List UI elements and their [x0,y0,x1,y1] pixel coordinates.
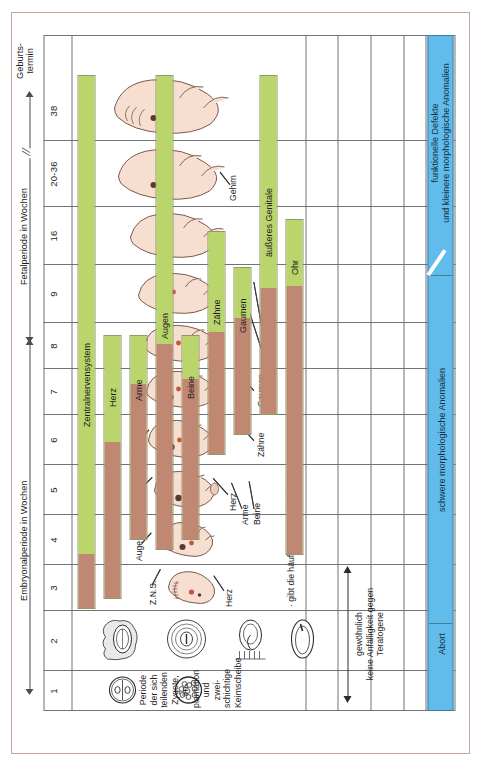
bar-label-herz: Herz [107,388,117,407]
anno-gehirn: Gehirn [227,175,237,201]
bar-gaumen [233,267,251,435]
week-tick-8: 8 [47,323,58,369]
week-tick-5: 5 [47,465,58,515]
blue-label-abort: Abort [436,624,446,664]
row-sep-embryo-bottom [305,35,306,711]
bar-arme [129,335,147,540]
bar-label-beine: Beine [185,376,195,399]
bar-label-zaehne: Zähne [211,299,221,325]
bar-label-aeusseres-genitale: äußeres Genitale [263,188,273,257]
bar-herz [103,335,121,599]
week-tick-16: 16 [47,207,58,265]
week-tick-9: 9 [47,265,58,323]
week-tick-6: 6 [47,415,58,465]
anno-auge-w4: Auge [133,541,143,561]
week-tick-1: 1 [47,671,58,711]
zygote-two-cell-icon [107,675,137,705]
embryonic-period-label: Embryonalperiode in Wochen [18,477,28,605]
embryonic-axis-line [29,343,30,691]
teratogen-brace-arrow-left [343,696,351,703]
row-sep-d [425,35,426,711]
fetal-axis-arrow-right [25,91,33,97]
chart-canvas: Embryonalperiode in Wochen Fetalperiode … [15,15,474,757]
bar-label-gaumen: Gaumen [237,298,247,333]
week-tick-38: 38 [47,81,58,141]
teratogen-brace-arrow-right [343,566,351,573]
blue-label-functional: funktionelle Defekte und kleinere morpho… [429,28,451,258]
col-sep-2 [43,610,455,611]
bar-zaehne [207,231,225,455]
week-tick-4: 4 [47,515,58,565]
week-tick-7: 7 [47,369,58,415]
anno-zaehne-w6: Zähne [255,433,265,457]
blue-divider-2 [428,275,452,276]
blue-label-severe: schwere morphologische Anomalien [436,290,446,590]
implantation-icon-1 [99,617,141,661]
embryonic-disc-oval-icon [287,617,317,661]
col-sep-1 [43,670,455,671]
anno-herz-w3: Herz [223,589,233,607]
col-sep-9 [43,264,455,265]
row-sep-c [403,35,404,711]
zygote-period-note: Periode der sich teilenden Zygote, Im- p… [137,672,242,708]
rotation-wrapper: Embryonalperiode in Wochen Fetalperiode … [0,0,489,772]
bar-label-ohr: Ohr [289,260,299,275]
week-tick-20-36: 20-36 [47,141,58,207]
figure-page: Embryonalperiode in Wochen Fetalperiode … [0,0,489,772]
bar-label-augen: Augen [159,313,169,339]
implantation-icon-2 [165,617,207,661]
col-sep-10 [43,206,455,207]
row-sep-top [71,35,72,711]
teratogen-brace-line [347,571,348,697]
fetal-axis-arrow-left [25,337,33,343]
embryonic-axis-arrow-left [25,689,33,695]
col-sep-11 [43,140,455,141]
embryo-week3-icon [165,567,221,607]
bar-label-zentralnervensystem: Zentralnervensystem [81,343,91,427]
birth-term-label: Geburts- termin [15,37,34,85]
blue-legend-band: Abort schwere morphologische Anomalien f… [427,35,453,711]
bilaminar-disc-icon [233,617,267,661]
teratogen-note: gewöhnlich keine Anfälligkeit gegen Tera… [353,571,385,697]
bar-label-arme: Arme [133,379,143,401]
week-tick-2: 2 [47,611,58,671]
fetal-period-label: Fetalperiode in Wochen [18,184,28,289]
week-tick-3: 3 [47,565,58,611]
bar-beine [181,335,199,540]
fetal-axis-line [29,93,30,341]
row-sep-a [337,35,338,711]
